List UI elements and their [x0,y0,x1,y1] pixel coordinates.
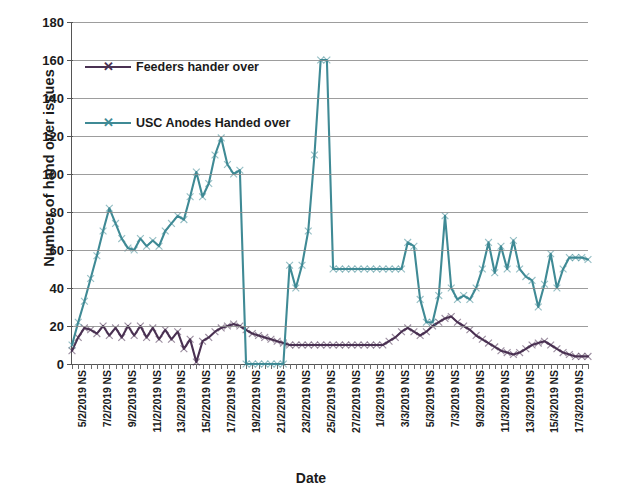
x-tick-mark [352,364,353,369]
data-point-marker [149,237,156,244]
x-axis-title: Date [0,470,622,486]
x-tick-mark [557,364,558,369]
x-tick-mark [165,364,166,369]
legend-label: Feeders hander over [136,60,259,74]
x-tick-mark [569,364,570,369]
data-point-marker [137,235,144,242]
x-tick-mark [234,364,235,369]
x-axis-tick-marks [72,364,588,369]
x-tick-mark [582,364,583,369]
data-point-marker [547,342,554,349]
x-tick-mark [314,364,315,369]
y-tick-mark [67,326,73,327]
x-tick-mark [333,364,334,369]
y-tick-mark [67,22,73,23]
x-axis-tick-label: 23/2/2019 NS [300,370,312,433]
gridline [72,250,588,251]
x-tick-mark [513,364,514,369]
x-tick-mark [489,364,490,369]
x-tick-mark [526,364,527,369]
x-tick-mark [470,364,471,369]
x-tick-mark [538,364,539,369]
data-point-marker [398,328,405,335]
y-axis-tick-label: 140 [24,92,64,105]
data-point-marker [143,334,150,341]
legend-marker-x-icon: ✕ [102,61,114,73]
x-axis-tick-label: 15/3/2019 NS [548,370,560,433]
y-axis-tick-label: 60 [24,244,64,257]
data-point-marker [168,220,175,227]
x-tick-mark [408,364,409,369]
x-tick-mark [203,364,204,369]
x-tick-mark [358,364,359,369]
y-axis-tick-label: 160 [24,54,64,67]
x-tick-mark [221,364,222,369]
x-axis-tick-label: 13/3/2019 NS [524,370,536,433]
x-tick-mark [209,364,210,369]
chart-container: Number of hand over issues 0204060801001… [0,0,622,496]
data-point-marker [491,344,498,351]
x-tick-mark [84,364,85,369]
y-tick-mark [67,60,73,61]
gridline [72,212,588,213]
y-axis-tick-label: 180 [24,16,64,29]
x-tick-mark [140,364,141,369]
gridline [72,22,588,23]
x-tick-mark [153,364,154,369]
data-point-marker [435,319,442,326]
y-tick-mark [67,98,73,99]
x-tick-mark [91,364,92,369]
x-tick-mark [370,364,371,369]
x-tick-mark [501,364,502,369]
legend-item[interactable]: ✕USC Anodes Handed over [85,112,290,134]
gridline [72,288,588,289]
gridline [72,326,588,327]
x-tick-mark [302,364,303,369]
data-point-marker [454,319,461,326]
x-tick-mark [364,364,365,369]
legend-swatch: ✕ [85,116,131,130]
x-tick-mark [97,364,98,369]
x-tick-mark [532,364,533,369]
x-tick-mark [78,364,79,369]
data-point-marker [411,328,418,335]
data-point-marker [212,328,219,335]
x-tick-mark [420,364,421,369]
x-tick-mark [544,364,545,369]
x-tick-mark [563,364,564,369]
x-tick-mark [128,364,129,369]
data-point-marker [174,212,181,219]
x-axis-tick-label: 11/3/2019 NS [499,370,511,432]
x-tick-mark [588,364,589,369]
data-point-marker [168,336,175,343]
x-tick-mark [190,364,191,369]
x-axis-tick-labels: 5/2/2019 NS7/2/2019 NS9/2/2019 NS11/2/20… [72,370,588,462]
x-tick-mark [389,364,390,369]
data-point-marker [554,345,561,352]
x-tick-mark [383,364,384,369]
data-point-marker [156,336,163,343]
x-axis-tick-label: 9/2/2019 NS [126,370,138,427]
data-point-marker [106,332,113,339]
x-axis-tick-label: 11/2/2019 NS [151,370,163,432]
legend-swatch: ✕ [85,60,131,74]
legend-item[interactable]: ✕Feeders hander over [85,56,290,78]
x-axis-tick-label: 7/2/2019 NS [101,370,113,427]
y-axis-tick-label: 20 [24,320,64,333]
data-point-marker [143,243,150,250]
x-axis-tick-label: 9/3/2019 NS [474,370,486,427]
gridline [72,174,588,175]
x-axis-tick-label: 21/2/2019 NS [275,370,287,433]
data-point-marker [454,296,461,303]
x-tick-mark [482,364,483,369]
x-tick-mark [445,364,446,369]
y-tick-mark [67,174,73,175]
y-tick-mark [67,250,73,251]
legend-marker-x-icon: ✕ [102,117,114,129]
y-tick-mark [67,136,73,137]
x-axis-tick-label: 5/2/2019 NS [76,370,88,427]
data-point-marker [93,330,100,337]
x-axis-tick-label: 1/3/2019 NS [374,370,386,427]
x-tick-mark [147,364,148,369]
x-tick-mark [451,364,452,369]
